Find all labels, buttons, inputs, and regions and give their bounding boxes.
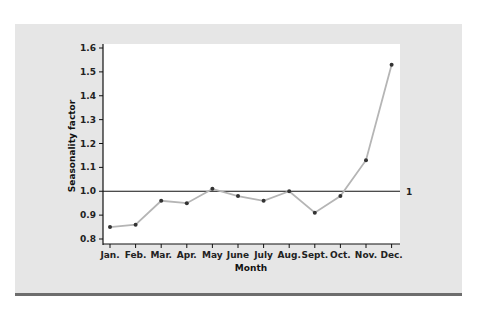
x-axis: Jan.Feb.Mar.Apr.MayJuneJulyAug.Sept.Oct.… <box>99 244 402 260</box>
data-point-marker <box>364 158 368 162</box>
data-point-marker <box>134 223 138 227</box>
y-tick-label: 0.8 <box>80 234 96 244</box>
x-tick-label: Apr. <box>177 250 197 260</box>
y-tick-label: 1.5 <box>80 67 96 77</box>
y-tick-label: 1.6 <box>80 43 96 53</box>
x-tick-label: May <box>202 250 223 260</box>
seasonality-line-chart: 0.80.91.01.11.21.31.41.51.6 Jan.Feb.Mar.… <box>0 0 481 313</box>
x-tick-label: June <box>226 250 249 260</box>
x-tick-label: Dec. <box>380 250 402 260</box>
y-axis: 0.80.91.01.11.21.31.41.51.6 <box>80 43 103 245</box>
x-tick-label: Nov. <box>355 250 377 260</box>
y-tick-label: 1.0 <box>80 186 96 196</box>
y-tick-label: 1.3 <box>80 115 96 125</box>
x-tick-label: July <box>253 250 273 260</box>
x-tick-label: Jan. <box>99 250 119 260</box>
x-tick-label: Feb. <box>125 250 147 260</box>
y-tick-label: 1.1 <box>80 162 96 172</box>
y-tick-label: 1.2 <box>80 139 96 149</box>
reference-line-label: 1 <box>406 187 412 197</box>
y-tick-label: 0.9 <box>80 210 96 220</box>
x-tick-label: Oct. <box>330 250 351 260</box>
data-point-marker <box>313 211 317 215</box>
data-point-marker <box>185 201 189 205</box>
data-point-marker <box>262 199 266 203</box>
y-axis-title: Seasonality factor <box>67 99 77 192</box>
data-point-marker <box>390 63 394 67</box>
data-point-marker <box>338 194 342 198</box>
data-point-marker <box>108 225 112 229</box>
y-tick-label: 1.4 <box>80 91 96 101</box>
x-tick-label: Sept. <box>301 250 328 260</box>
x-tick-label: Aug. <box>278 250 301 260</box>
data-point-marker <box>287 189 291 193</box>
x-tick-label: Mar. <box>150 250 172 260</box>
x-axis-title: Month <box>235 263 267 273</box>
data-point-marker <box>159 199 163 203</box>
data-point-marker <box>236 194 240 198</box>
data-point-marker <box>210 187 214 191</box>
